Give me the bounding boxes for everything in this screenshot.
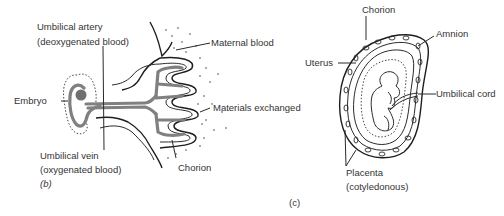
embryo-label: Embryo [14,95,47,106]
chorion-inner-upper [112,64,160,85]
uterus-wall-inner [348,42,421,150]
fetus-outline [371,72,399,131]
chorion-outer-left [122,58,160,90]
fetus-leg [384,116,389,130]
umbilical-artery-vessel [86,96,156,104]
panel-b-label: (b) [40,178,52,189]
panel-c-uterus-section: Chorion Amnion Uterus Umbilical cord Pla… [289,4,496,208]
chorion-outer-lower [96,117,162,168]
chorion-wall-upper [150,22,172,56]
umbilical-artery-label: Umbilical artery [37,21,103,32]
placenta-label: Placenta [346,167,384,178]
umbilical-cord-label: Umbilical cord [436,88,496,99]
embryo-head [76,90,87,101]
umbilical-vein-vessel [88,107,156,114]
amnion-label: Amnion [436,28,468,39]
umbilical-vein-sublabel: (oxygenated blood) [40,164,121,175]
chorion-inner-lower [100,126,154,160]
villus-capillary-upper [156,67,182,96]
panel-b-umbilical-circulation: Umbilical artery (deoxygenated blood) Em… [14,21,301,189]
chorion-b-label: Chorion [178,162,211,173]
villus-capillary-mid-upper [158,84,182,86]
maternal-blood-label: Maternal blood [211,37,274,48]
uterus-label: Uterus [305,57,333,68]
villus-capillary-lower [156,114,184,135]
maternal-blood-leader-line [176,43,210,50]
fetus-arm [388,92,391,104]
materials-exchanged-leader-line [200,108,210,112]
villus-capillary-mid [156,96,182,98]
umbilical-vein-label: Umbilical vein [40,150,99,161]
panel-c-label: (c) [289,197,300,208]
chorion-c-label: Chorion [362,4,395,15]
umbilical-leader-line [103,46,104,150]
umbilical-artery-sublabel: (deoxygenated blood) [37,36,129,47]
placenta-diagram-figure: Umbilical artery (deoxygenated blood) Em… [0,0,504,216]
placenta-leader-line-2 [346,150,356,166]
placenta-sublabel: (cotyledonous) [346,181,408,192]
materials-exchanged-label: Materials exchanged [213,102,301,113]
chorion-b-leader-line [172,140,176,158]
